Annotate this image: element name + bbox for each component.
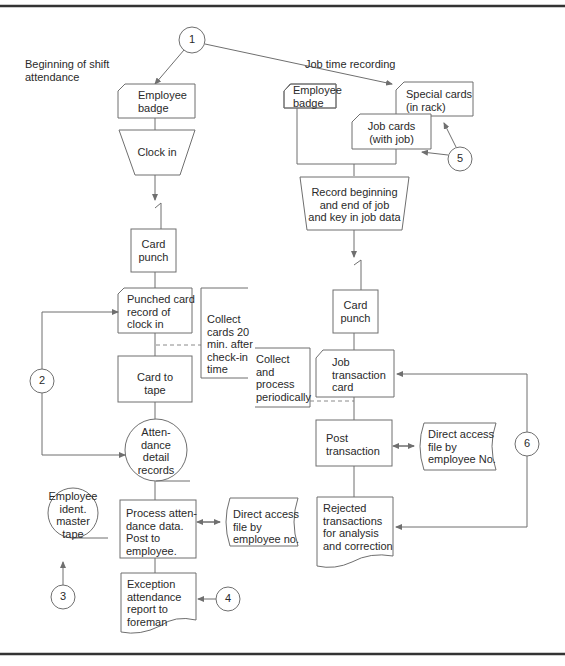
connector-1-label: 1: [182, 33, 202, 45]
job-cards: Job cards (with job): [352, 120, 431, 145]
comm-link-left: [155, 203, 161, 229]
arrow-1-to-left-badge: [155, 50, 184, 84]
clock-in: Clock in: [125, 146, 189, 159]
job-transaction-card: Job transaction card: [332, 356, 386, 394]
punched-card-record: Punched card record of clock in: [127, 293, 195, 331]
arrow-5-to-job-cards: [422, 152, 448, 155]
exception-report: Exception attendance report to foreman: [127, 578, 181, 628]
right-card-punch: Card punch: [333, 299, 378, 324]
card-to-tape: Card to tape: [118, 371, 192, 396]
right-employee-badge: Employee badge: [293, 84, 342, 109]
attendance-detail-records: Atten- dance detail records: [126, 426, 186, 476]
direct-access-right: Direct access file by employee No.: [428, 428, 496, 466]
arrow-2-to-punched-card: [42, 312, 118, 369]
connector-4-label: 4: [218, 592, 238, 604]
direct-access-left: Direct access file by employee no.: [233, 508, 299, 546]
connector-2-label: 2: [32, 374, 52, 386]
flowchart-canvas: [0, 0, 565, 666]
record-job-data: Record beginning and end of job and key …: [300, 186, 409, 224]
comm-link-right: [354, 260, 361, 290]
process-attendance: Process atten- dance data. Post to emplo…: [126, 507, 197, 557]
connector-6-label: 6: [517, 437, 537, 449]
employee-master-tape: Employee ident. master tape: [48, 490, 98, 540]
connector-3-label: 3: [53, 590, 73, 602]
job-section-title: Job time recording: [305, 58, 396, 71]
arrow-5-to-special-cards: [444, 123, 456, 147]
collect-cards-note: Collect cards 20 min. after check-in tim…: [207, 313, 253, 376]
attendance-section-title: Beginning of shift attendance: [25, 58, 109, 83]
rejected-transactions: Rejected transactions for analysis and c…: [323, 502, 393, 552]
connector-5-label: 5: [450, 152, 470, 164]
special-cards: Special cards (in rack): [406, 88, 472, 113]
collect-process-note: Collect and process periodically: [256, 353, 311, 403]
left-employee-badge: Employee badge: [138, 89, 187, 114]
arrow-2-to-attendance: [42, 393, 125, 455]
left-card-punch: Card punch: [131, 238, 176, 263]
post-transaction: Post transaction: [326, 432, 380, 457]
